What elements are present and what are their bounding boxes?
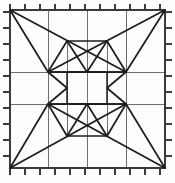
geometric-figure	[0, 0, 175, 183]
pattern-canvas	[0, 0, 175, 183]
